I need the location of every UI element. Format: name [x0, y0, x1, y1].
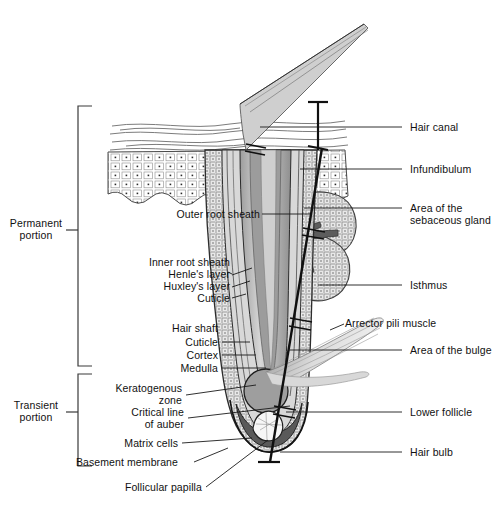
label-medulla: Medulla — [80, 362, 218, 374]
label-hair-canal: Hair canal — [410, 121, 458, 133]
transient-line1: Transient — [14, 399, 58, 411]
hair-follicle-diagram: Permanent portion Transient portion Oute… — [0, 0, 501, 507]
permanent-line1: Permanent — [10, 217, 62, 229]
label-outer-root-sheath: Outer root sheath — [100, 208, 260, 220]
label-inner-root-sheath: Inner root sheath — [80, 256, 230, 268]
label-matrix-cells: Matrix cells — [64, 437, 178, 449]
anatomy-illustration — [0, 0, 501, 507]
label-hair-shaft: Hair shaft — [80, 322, 218, 334]
bracket-label-transient: Transient portion — [6, 399, 66, 423]
keratogenous-line1: Keratogenous — [115, 382, 182, 394]
critical-line2: of auber — [70, 418, 184, 430]
bracket-label-permanent: Permanent portion — [6, 217, 66, 241]
label-area-of-the-bulge: Area of the bulge — [410, 344, 492, 356]
sebaceous-line1: Area of the — [410, 202, 462, 214]
label-cortex: Cortex — [80, 349, 218, 361]
critical-line1: Critical line — [131, 406, 184, 418]
label-henles-layer: Henle's layer — [80, 268, 230, 280]
label-basement-membrane: Basement membrane — [34, 456, 178, 468]
label-critical-line-of-auber: Critical line of auber — [70, 406, 184, 430]
label-arrector-pili-muscle: Arrector pili muscle — [345, 317, 436, 329]
label-irs-cuticle: Cuticle — [80, 292, 230, 304]
label-lower-follicle: Lower follicle — [410, 406, 472, 418]
label-hair-bulb: Hair bulb — [410, 446, 453, 458]
label-keratogenous-zone: Keratogenous zone — [70, 382, 182, 406]
label-isthmus: Isthmus — [410, 279, 447, 291]
label-sebaceous-gland: Area of the sebaceous gland — [410, 202, 491, 226]
keratogenous-line2: zone — [70, 394, 182, 406]
label-follicular-papilla: Follicular papilla — [70, 481, 202, 493]
label-huxleys-layer: Huxley's layer — [80, 280, 230, 292]
label-shaft-cuticle: Cuticle — [80, 336, 218, 348]
label-infundibulum: Infundibulum — [410, 163, 471, 175]
transient-line2: portion — [6, 411, 66, 423]
sebaceous-line2: sebaceous gland — [410, 214, 491, 226]
permanent-line2: portion — [6, 229, 66, 241]
